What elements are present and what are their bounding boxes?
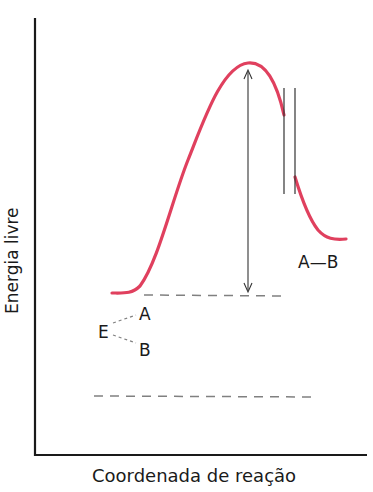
dashed-connector-e-a [113, 315, 136, 323]
energy-diagram [0, 0, 373, 492]
bound-complex-label: A—B [298, 252, 338, 272]
dashed-level-lower [94, 396, 318, 397]
energy-curve-rising [112, 63, 284, 293]
enzyme-label: E [98, 322, 109, 342]
x-axis-label: Coordenada de reação [92, 465, 296, 486]
dashed-level-initial [144, 295, 287, 296]
substrate-a-label: A [139, 304, 151, 324]
energy-curve-falling [295, 177, 346, 239]
dashed-connector-e-b [113, 335, 136, 343]
substrate-b-label: B [139, 340, 151, 360]
y-axis-label: Energia livre [2, 207, 22, 314]
